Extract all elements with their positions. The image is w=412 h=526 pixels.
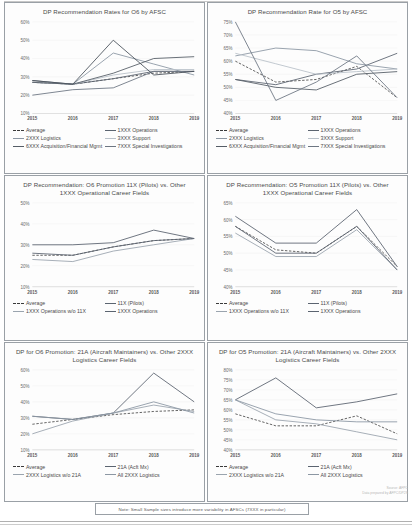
line-chart-svg: 65%60%55%50%45%40%20152016201720182019 (210, 198, 405, 299)
line-chart-svg: 60%50%40%30%20%10%20152016201720182019 (7, 17, 202, 126)
svg-text:40%: 40% (20, 56, 29, 61)
legend-label: Average (26, 300, 45, 306)
legend-item[interactable]: 6XXX Acquisition/Financial Mgmt (216, 143, 308, 149)
chart-panel-o5-by-afsc: DP Recommendation Rate for O5 by AFSC 75… (207, 2, 408, 174)
svg-text:60%: 60% (223, 59, 232, 64)
svg-text:20%: 20% (20, 264, 29, 269)
svg-text:2016: 2016 (68, 453, 78, 458)
plot-lines: 50%40%30%20%10%20152016201720182019 (20, 201, 199, 295)
svg-text:75%: 75% (223, 378, 232, 383)
legend-item[interactable]: 11X (Pilots) (105, 300, 197, 306)
legend-swatch (216, 146, 227, 147)
legend-item[interactable]: 21A (Acft Mx) (308, 464, 400, 470)
legend-label: Average (26, 464, 45, 470)
svg-text:65%: 65% (223, 46, 232, 51)
legend-item[interactable]: 2XXX Logistics w/o 21A (216, 472, 308, 478)
legend-item[interactable]: 7XXX Special Investigations (308, 143, 400, 149)
legend-swatch (216, 303, 227, 304)
svg-text:65%: 65% (223, 201, 232, 206)
legend-item[interactable]: 11X (Pilots) (308, 300, 400, 306)
svg-text:2015: 2015 (27, 453, 37, 458)
line-chart-svg: 50%40%30%20%10%20152016201720182019 (7, 198, 202, 299)
legend-item[interactable]: 3XXX Support (308, 135, 400, 141)
legend-item[interactable]: 2XXX Logistics w/o 21A (13, 472, 105, 478)
legend-label: 1XXX Operations (118, 127, 158, 133)
legend-item[interactable]: 1XXX Operations (105, 127, 197, 133)
footnote-box: Note: Small Sample sizes introduce more … (95, 503, 309, 515)
legend-swatch (308, 303, 319, 304)
legend-swatch (308, 138, 319, 139)
svg-text:2018: 2018 (149, 290, 159, 295)
plot-area: 60%50%40%30%20%10%20152016201720182019 (7, 17, 202, 126)
legend-item[interactable]: Average (216, 127, 308, 133)
svg-text:50%: 50% (223, 428, 232, 433)
legend-item[interactable]: 1XXX Operations (105, 308, 197, 314)
legend-swatch (105, 146, 116, 147)
legend-swatch (216, 311, 227, 312)
svg-text:2019: 2019 (189, 116, 199, 121)
footnote-text: Note: Small Sample sizes introduce more … (119, 507, 286, 512)
legend-item[interactable]: Average (13, 300, 105, 306)
legend-swatch (13, 303, 24, 304)
legend-item[interactable]: All 2XXX Logistics (105, 472, 197, 478)
chart-panel-o5-21a: DP for O5 Promotion: 21A (Aircraft Maint… (207, 342, 408, 502)
legend-label: 1XXX Operations (118, 308, 158, 314)
legend-item[interactable]: 7XXX Special Investigations (105, 143, 197, 149)
legend-item[interactable]: 3XXX Support (105, 135, 197, 141)
svg-text:55%: 55% (223, 234, 232, 239)
svg-text:2018: 2018 (149, 116, 159, 121)
svg-text:2017: 2017 (311, 290, 321, 295)
plot-area: 50%40%30%20%10%20152016201720182019 (7, 198, 202, 299)
legend-item[interactable]: All 2XXX Logistics (308, 472, 400, 478)
legend-item[interactable]: Average (13, 127, 105, 133)
source-credit: Source: AFPC Data prepared by AFPC/DP2S (362, 486, 408, 495)
svg-text:2016: 2016 (68, 290, 78, 295)
chart-title: DP Recommendation Rates for O6 by AFSC (7, 5, 202, 17)
legend-label: 1XXX Operations (321, 308, 361, 314)
svg-text:65%: 65% (223, 398, 232, 403)
plot-area: 80%75%70%65%60%55%50%45%40%2015201620172… (210, 365, 405, 463)
legend-item[interactable]: 2XXX Logistics (13, 135, 105, 141)
plot-lines: 60%50%40%30%20%10%20152016201720182019 (20, 20, 199, 122)
svg-text:2017: 2017 (108, 290, 118, 295)
legend-swatch (13, 474, 24, 475)
svg-text:20%: 20% (20, 432, 29, 437)
legend-item[interactable]: Average (216, 300, 308, 306)
legend-swatch (13, 311, 24, 312)
svg-text:2016: 2016 (68, 116, 78, 121)
legend-item[interactable]: 2XXX Logistics (216, 135, 308, 141)
legend-label: 7XXX Special Investigations (118, 143, 183, 149)
legend-item[interactable]: 1XXX Operations w/o 11X (13, 308, 105, 314)
legend-swatch (105, 130, 116, 131)
legend-label: 6XXX Acquisition/Financial Mgmt (229, 143, 305, 149)
legend-item[interactable]: 6XXX Acquisition/Financial Mgmt (13, 143, 105, 149)
legend-swatch (13, 130, 24, 131)
legend-swatch (216, 474, 227, 475)
legend-item[interactable]: 1XXX Operations (308, 127, 400, 133)
legend-item[interactable]: Average (13, 464, 105, 470)
legend-label: 2XXX Logistics w/o 21A (229, 472, 284, 478)
legend-label: Average (26, 127, 45, 133)
svg-text:2018: 2018 (149, 453, 159, 458)
svg-text:75%: 75% (223, 20, 232, 25)
legend-label: Average (229, 464, 248, 470)
chart-legend: Average 11X (Pilots) 1XXX Operations w/o… (7, 299, 202, 314)
svg-text:40%: 40% (20, 222, 29, 227)
legend-item[interactable]: 21A (Acft Mx) (105, 464, 197, 470)
legend-swatch (105, 466, 116, 467)
legend-swatch (13, 146, 24, 147)
legend-item[interactable]: Average (216, 464, 308, 470)
chart-legend: Average 1XXX Operations 2XXX Logistics 3… (7, 126, 202, 149)
legend-item[interactable]: 1XXX Operations w/o 11X (216, 308, 308, 314)
legend-item[interactable]: 1XXX Operations (308, 308, 400, 314)
svg-text:2017: 2017 (108, 453, 118, 458)
chart-panel-o6-by-afsc: DP Recommendation Rates for O6 by AFSC 6… (4, 2, 205, 174)
svg-text:2015: 2015 (27, 290, 37, 295)
svg-text:70%: 70% (223, 33, 232, 38)
chart-legend: Average 11X (Pilots) 1XXX Operations w/o… (210, 299, 405, 314)
chart-title: DP Recommendation Rate for O5 by AFSC (210, 5, 405, 17)
legend-swatch (216, 130, 227, 131)
legend-swatch (308, 146, 319, 147)
line-chart-svg: 60%50%40%30%20%10%20152016201720182019 (7, 365, 202, 463)
legend-label: 21A (Acft Mx) (118, 464, 149, 470)
